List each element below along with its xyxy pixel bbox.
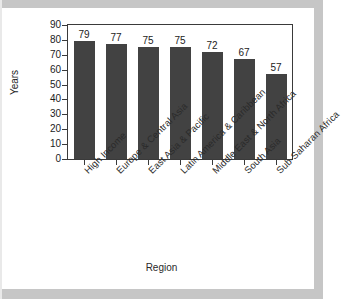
- y-axis-tick-mark: [62, 85, 67, 86]
- y-axis-tick-mark: [62, 55, 67, 56]
- y-axis-tick-mark: [62, 99, 67, 100]
- x-axis-title: Region: [0, 262, 323, 273]
- y-axis-tick-label: 90: [50, 20, 61, 30]
- page-edge-top-band: [0, 0, 323, 8]
- bar-value-label: 57: [256, 62, 296, 73]
- y-axis-tick-label: 80: [50, 35, 61, 45]
- y-axis-tick-label: 60: [50, 65, 61, 75]
- y-axis-tick-mark: [62, 129, 67, 130]
- y-axis-tick-label: 30: [50, 109, 61, 119]
- y-axis-ticks: 0102030405060708090: [38, 24, 67, 160]
- y-axis-tick-mark: [62, 144, 67, 145]
- bar-slot: 79: [68, 25, 100, 159]
- y-axis-tick-label: 10: [50, 139, 61, 149]
- y-axis-tick-mark: [62, 70, 67, 71]
- y-axis-tick-mark: [62, 25, 67, 26]
- y-axis-tick-mark: [62, 114, 67, 115]
- page-edge-bottom-band: [0, 289, 323, 299]
- y-axis-title: Years: [9, 53, 20, 113]
- bar: [74, 41, 95, 159]
- y-axis-tick-label: 20: [50, 124, 61, 134]
- y-axis-tick-label: 50: [50, 80, 61, 90]
- y-axis-tick-label: 40: [50, 94, 61, 104]
- x-axis-tick-labels: High IncomeEurope & Central AsiaEast Asi…: [0, 160, 323, 270]
- y-axis-tick-label: 70: [50, 50, 61, 60]
- bar-value-label: 67: [224, 47, 264, 58]
